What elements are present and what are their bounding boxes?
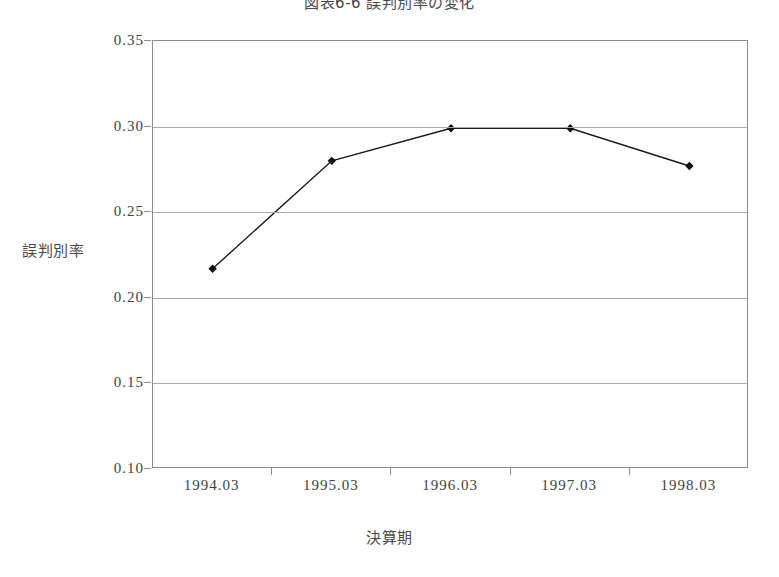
y-axis-tick-label: 0.35 xyxy=(86,33,144,48)
y-axis-tick-mark xyxy=(144,468,151,469)
x-axis-title: 決算期 xyxy=(0,526,779,547)
x-axis-tick-marks xyxy=(152,468,748,476)
x-axis-tick-label: 1996.03 xyxy=(390,477,510,494)
y-axis-tick-mark xyxy=(144,211,151,212)
y-axis-tick-label: 0.15 xyxy=(86,375,144,390)
gridline xyxy=(153,127,747,128)
y-axis-tick-label: 0.30 xyxy=(86,119,144,134)
data-point-marker xyxy=(447,124,455,132)
y-axis-tick-label: 0.20 xyxy=(86,290,144,305)
x-axis-tick-label: 1998.03 xyxy=(628,477,748,494)
x-axis-tick-mark xyxy=(510,468,511,475)
x-axis-tick-label: 1995.03 xyxy=(271,477,391,494)
y-axis-tick-label: 0.10 xyxy=(86,461,144,476)
gridline xyxy=(153,212,747,213)
y-axis-tick-mark xyxy=(144,297,151,298)
x-axis-tick-label: 1994.03 xyxy=(152,477,272,494)
gridline xyxy=(153,298,747,299)
chart-title: 図表6-6 誤判別率の変化 xyxy=(0,0,779,12)
plot-area xyxy=(152,40,748,468)
gridline xyxy=(153,383,747,384)
data-point-marker xyxy=(566,124,574,132)
series-markers xyxy=(208,124,693,273)
x-axis-tick-mark xyxy=(390,468,391,475)
x-axis-tick-mark xyxy=(271,468,272,475)
y-axis-tick-mark xyxy=(144,382,151,383)
y-axis-tick-label: 0.25 xyxy=(86,204,144,219)
x-axis-tick-label: 1997.03 xyxy=(509,477,629,494)
y-axis-tick-labels: 0.350.300.250.200.150.10 xyxy=(84,40,144,468)
x-axis-tick-labels: 1994.031995.031996.031997.031998.03 xyxy=(152,477,748,499)
series-line-misclassification-rate xyxy=(213,128,690,268)
data-point-marker xyxy=(685,162,693,170)
y-axis-tick-mark xyxy=(144,40,151,41)
chart-figure: 図表6-6 誤判別率の変化 誤判別率 0.350.300.250.200.150… xyxy=(0,0,779,577)
x-axis-tick-mark xyxy=(629,468,630,475)
data-series-layer xyxy=(153,41,749,469)
y-axis-tick-mark xyxy=(144,126,151,127)
y-axis-title: 誤判別率 xyxy=(22,239,84,260)
